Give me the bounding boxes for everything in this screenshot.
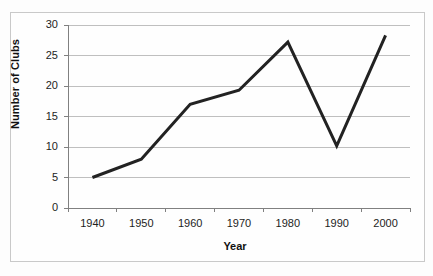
chart-page: 051015202530 194019501960197019801990200… [0, 0, 433, 276]
y-tick-label: 0 [32, 202, 58, 213]
y-tick-label: 20 [32, 80, 58, 91]
series-line-number-of-clubs [92, 35, 385, 177]
y-tick-label: 5 [32, 172, 58, 183]
y-tick-label: 15 [32, 111, 58, 122]
x-axis-title: Year [150, 240, 320, 252]
data-series [92, 35, 385, 177]
line-chart-plot [0, 0, 433, 276]
x-tick-label: 2000 [356, 218, 416, 229]
gridlines [68, 25, 410, 178]
y-axis-ticks [64, 25, 68, 208]
y-tick-label: 30 [32, 19, 58, 30]
y-tick-label: 25 [32, 50, 58, 61]
x-axis-ticks [68, 208, 410, 212]
y-tick-label: 10 [32, 141, 58, 152]
y-axis-title: Number of Clubs [9, 25, 21, 143]
